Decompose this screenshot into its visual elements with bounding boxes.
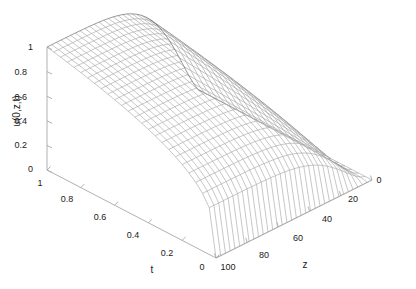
z-axis-tick-label: 100 <box>220 262 235 272</box>
t-axis-tick-label: 0 <box>199 262 204 272</box>
u-axis-tick-label: 0.2 <box>14 140 27 150</box>
t-axis-title: t <box>151 264 154 275</box>
z-axis-tick-label: 40 <box>322 214 332 224</box>
z-axis-tick-label: 80 <box>259 250 269 260</box>
t-axis-tick-label: 0.6 <box>94 212 107 222</box>
u-axis-tick-label: 0 <box>28 164 33 174</box>
surface-plot: 10.80.60.40.2010.80.60.40.20100806040200… <box>0 0 416 289</box>
u-axis-tick-label: 1 <box>28 42 33 52</box>
t-axis-tick-label: 1 <box>37 178 42 188</box>
u-axis-title: u(0,z,t) <box>11 95 22 126</box>
z-axis-title: z <box>303 259 308 270</box>
u-axis-tick-label: 0.8 <box>14 67 27 77</box>
z-axis-tick-label: 0 <box>376 175 381 185</box>
t-axis-tick-label: 0.4 <box>127 230 140 240</box>
z-axis-tick-label: 20 <box>348 194 358 204</box>
matlab-figure-canvas: 10.80.60.40.2010.80.60.40.20100806040200… <box>0 0 416 289</box>
z-axis-tick-label: 60 <box>293 233 303 243</box>
t-axis-tick-label: 0.2 <box>161 248 174 258</box>
t-axis-tick-label: 0.8 <box>61 194 74 204</box>
